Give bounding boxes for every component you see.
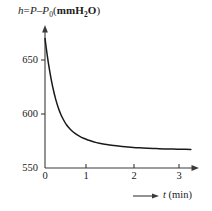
x-axis-label-unit: (min) bbox=[169, 189, 192, 200]
x-tick-label-2: 2 bbox=[126, 170, 142, 181]
chart-figure: h=P–P0(mmH2O) 650 600 550 0 1 2 3 t bbox=[0, 0, 212, 211]
y-tick-label-650: 650 bbox=[8, 54, 38, 65]
x-tick-label-0: 0 bbox=[37, 170, 53, 181]
x-axis-label-symbol: t bbox=[163, 189, 166, 200]
x-tick-label-3: 3 bbox=[171, 170, 187, 181]
y-tick-marks bbox=[41, 60, 45, 114]
data-series-line bbox=[45, 38, 191, 149]
x-axis-arrowhead bbox=[192, 165, 200, 171]
x-tick-label-1: 1 bbox=[78, 170, 94, 181]
y-tick-label-600: 600 bbox=[8, 108, 38, 119]
y-tick-label-550: 550 bbox=[8, 162, 38, 173]
x-label-arrowhead bbox=[152, 193, 159, 198]
x-axis-label-arrow bbox=[133, 193, 159, 198]
x-tick-marks bbox=[86, 164, 179, 168]
x-axis-label: t (min) bbox=[163, 189, 192, 200]
y-axis-arrowhead bbox=[42, 25, 48, 33]
